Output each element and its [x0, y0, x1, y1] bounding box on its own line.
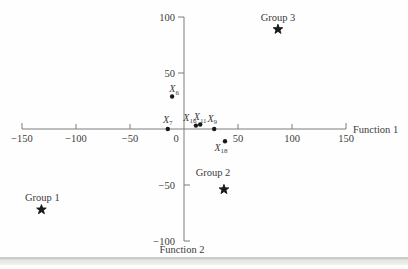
x-tick-label: 100: [284, 133, 300, 144]
y-tick-label: 100: [159, 12, 175, 23]
data-point-X7: [166, 127, 170, 131]
data-point-label-X9: X9: [206, 113, 217, 127]
page-divider-rule: [0, 257, 408, 265]
x-tick-label: −150: [11, 133, 33, 144]
centroid-star-group-2: [219, 184, 229, 193]
y-tick-label: 50: [165, 68, 176, 79]
data-point-label-X18: X18: [213, 142, 228, 156]
discriminant-scatter-figure: −150−100−50050100150Function 110050−50−1…: [0, 0, 408, 269]
data-point-label-X7: X7: [162, 114, 173, 128]
x-axis-title: Function 1: [353, 124, 398, 135]
plot-canvas: −150−100−50050100150Function 110050−50−1…: [0, 0, 408, 269]
x-tick-label: 0: [173, 133, 178, 144]
centroid-label-group-2: Group 2: [196, 167, 231, 178]
x-tick-label: 150: [338, 133, 354, 144]
x-tick-label: 50: [233, 133, 244, 144]
data-point-X9: [212, 127, 216, 131]
data-point-X18: [223, 139, 227, 143]
centroid-star-group-1: [37, 205, 47, 214]
x-tick-label: −100: [65, 133, 87, 144]
centroid-star-group-3: [273, 24, 283, 33]
centroid-label-group-3: Group 3: [261, 12, 296, 23]
y-tick-label: −50: [159, 180, 175, 191]
y-axis-title: Function 2: [159, 244, 204, 255]
centroid-label-group-1: Group 1: [25, 192, 60, 203]
data-point-label-X6: X6: [168, 83, 179, 97]
data-point-X6: [170, 94, 174, 98]
x-tick-label: −50: [122, 133, 138, 144]
